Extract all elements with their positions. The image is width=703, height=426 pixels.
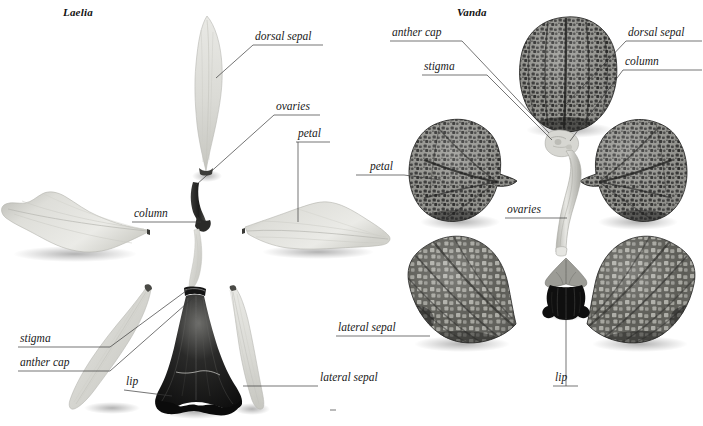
laelia-left-lateral-sepal — [69, 284, 152, 414]
label-vanda-petal: petal — [370, 160, 393, 172]
genus-title-vanda: Vanda — [457, 6, 487, 18]
laelia-right-petal — [242, 202, 390, 259]
vanda-left-lateral-sepal — [400, 232, 525, 352]
label-vanda-anther-cap: anther cap — [392, 26, 442, 38]
genus-title-laelia: Laelia — [63, 6, 93, 18]
label-laelia-column: column — [134, 207, 168, 219]
label-laelia-dorsal-sepal: dorsal sepal — [255, 30, 312, 42]
label-vanda-lateral-sepal: lateral sepal — [338, 321, 396, 333]
label-vanda-lip: lip — [555, 371, 567, 383]
label-vanda-dorsal-sepal: dorsal sepal — [628, 26, 685, 38]
label-laelia-petal: petal — [298, 127, 321, 139]
laelia-column — [189, 182, 211, 290]
label-laelia-anther-cap: anther cap — [20, 356, 70, 368]
vanda-right-lateral-sepal — [578, 232, 703, 352]
label-vanda-column: column — [625, 55, 659, 67]
vanda-dorsal-sepal — [515, 12, 625, 140]
specimen-artwork-layer — [0, 0, 703, 426]
label-laelia-stigma: stigma — [20, 332, 51, 344]
label-vanda-ovaries: ovaries — [507, 203, 541, 215]
laelia-left-petal — [2, 192, 150, 262]
laelia-lip — [155, 287, 242, 419]
label-laelia-ovaries: ovaries — [276, 100, 310, 112]
label-laelia-lateral-sepal: lateral sepal — [320, 371, 378, 383]
laelia-dorsal-sepal — [192, 16, 222, 182]
botanical-plate: Laelia Vanda dorsal sepal ovaries petal … — [0, 0, 703, 426]
label-vanda-stigma: stigma — [424, 60, 455, 72]
vanda-column — [545, 130, 581, 256]
vanda-lip — [542, 258, 589, 321]
label-laelia-lip: lip — [126, 375, 138, 387]
